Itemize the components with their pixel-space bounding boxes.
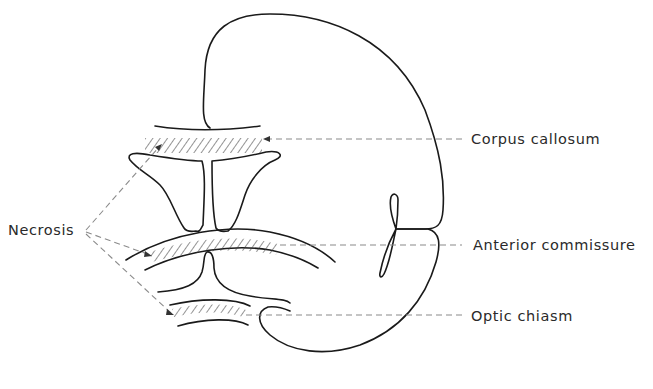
leader-necrosis-3 xyxy=(86,234,172,314)
hemisphere-lower-outline xyxy=(260,229,439,352)
leader-necrosis-1 xyxy=(86,146,160,230)
anterior-commissure-necrosis-band xyxy=(150,238,278,262)
brain-section-diagram xyxy=(0,0,653,389)
hemisphere-upper-outline xyxy=(203,14,443,229)
optic-chiasm-necrosis-band xyxy=(172,305,246,318)
ventricle-outline xyxy=(129,153,204,231)
label-necrosis: Necrosis xyxy=(8,223,74,238)
lateral-fissure xyxy=(380,194,398,277)
optic-chiasm-lower-arc xyxy=(178,320,248,326)
label-anterior-commissure: Anterior commissure xyxy=(473,238,636,253)
arrowhead-corpus-callosum xyxy=(263,136,270,142)
corpus-callosum-necrosis-band xyxy=(145,138,262,153)
label-corpus-callosum: Corpus callosum xyxy=(471,132,600,147)
label-optic-chiasm: Optic chiasm xyxy=(471,309,573,324)
infundibulum-outline xyxy=(158,252,290,303)
ventricle-outline-right xyxy=(212,152,280,232)
